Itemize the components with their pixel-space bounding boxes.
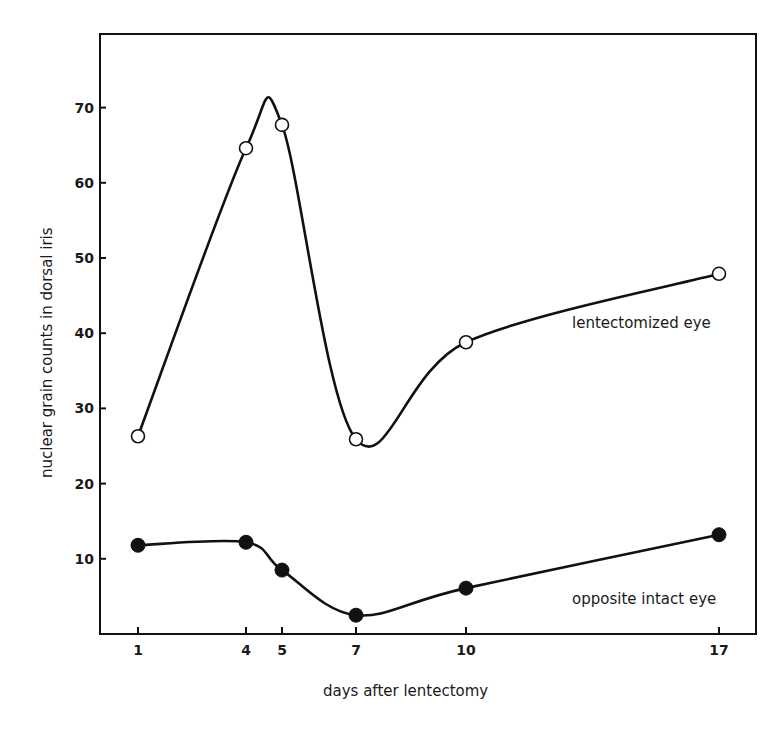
y-tick-label: 70: [75, 100, 95, 116]
x-tick-label: 7: [351, 642, 361, 658]
open-circle-marker: [276, 118, 289, 131]
x-axis: 14571017: [133, 627, 729, 658]
x-tick-label: 17: [709, 642, 728, 658]
open-circle-marker: [132, 430, 145, 443]
x-tick-label: 5: [277, 642, 287, 658]
y-tick-label: 20: [75, 476, 95, 492]
filled-circle-marker: [459, 581, 473, 595]
open-circle-marker: [460, 336, 473, 349]
y-tick-label: 10: [75, 551, 95, 567]
filled-circle-marker: [712, 528, 726, 542]
filled-circle-marker: [131, 538, 145, 552]
series-label-lentectomized: lentectomized eye: [572, 314, 711, 332]
y-tick-label: 60: [75, 175, 95, 191]
y-tick-label: 40: [75, 325, 95, 341]
open-circle-marker: [240, 142, 253, 155]
lentectomized-eye-curve: [138, 97, 719, 447]
y-axis: 10203040506070: [75, 100, 106, 567]
x-tick-label: 10: [456, 642, 476, 658]
open-circle-marker: [713, 267, 726, 280]
x-tick-label: 4: [241, 642, 251, 658]
x-axis-title: days after lentectomy: [323, 682, 488, 700]
y-tick-label: 30: [75, 400, 95, 416]
filled-circle-marker: [275, 563, 289, 577]
open-circle-marker: [350, 433, 363, 446]
x-tick-label: 1: [133, 642, 143, 658]
filled-circle-marker: [239, 535, 253, 549]
plot-frame: [100, 34, 756, 634]
lentectomized-eye-markers: [132, 118, 726, 445]
series-label-opposite-intact: opposite intact eye: [572, 590, 716, 608]
y-axis-title: nuclear grain counts in dorsal iris: [38, 227, 56, 478]
y-tick-label: 50: [75, 250, 95, 266]
filled-circle-marker: [349, 608, 363, 622]
chart-canvas: 10203040506070 14571017 lentectomized ey…: [0, 0, 784, 738]
